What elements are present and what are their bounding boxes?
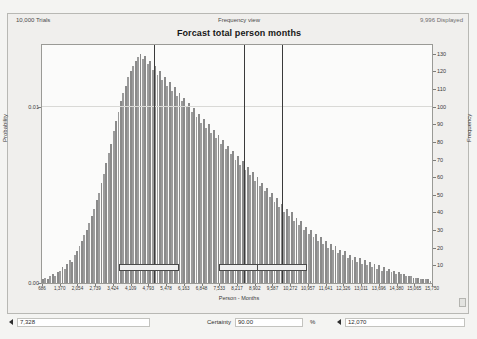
plot-area[interactable] — [41, 44, 433, 284]
y-axis-tickmark-right — [433, 230, 436, 231]
grabber-handle-left[interactable] — [119, 264, 179, 271]
y-axis-tick-right: 130 — [437, 51, 446, 57]
certainty-grabber-left[interactable] — [154, 45, 155, 283]
x-axis-tickmark — [237, 284, 238, 286]
y-axis-tickmark-right — [433, 177, 436, 178]
scroll-thumb[interactable] — [459, 298, 466, 307]
certainty-value: 90.00 — [238, 319, 253, 325]
histogram-bars — [42, 45, 432, 283]
gridline — [42, 106, 432, 107]
y-axis-tick-right: 110 — [437, 86, 446, 92]
y-axis-tickmark-right — [433, 248, 436, 249]
y-axis-tick-right: 90 — [437, 121, 443, 127]
view-mode-label: Frequency view — [8, 17, 470, 23]
x-axis-tickmark — [77, 284, 78, 286]
x-axis-label: Person - Months — [8, 295, 470, 301]
y-axis-tick-right: 40 — [437, 209, 443, 215]
x-axis-tickmark — [148, 284, 149, 286]
chart-header: 10,000 Trials Frequency view 9,996 Displ… — [8, 17, 470, 28]
x-axis-tickmark — [379, 284, 380, 286]
x-axis-tick: 15,750 — [421, 286, 443, 291]
y-axis-label-right: Frequency — [466, 114, 472, 142]
x-axis-tickmark — [131, 284, 132, 286]
upper-bound-value: 12,070 — [348, 319, 366, 325]
x-axis-tickmark — [219, 284, 220, 286]
y-axis-tick-right: 100 — [437, 104, 446, 110]
y-axis-tick-right: 120 — [437, 68, 446, 74]
x-axis-tickmark — [290, 284, 291, 286]
y-axis-tickmark-right — [433, 265, 436, 266]
y-axis-tick-right: 10 — [437, 262, 443, 268]
page-title: Forcast total person months — [8, 28, 470, 38]
x-axis-tickmark — [432, 284, 433, 286]
y-axis-label-left: Probability — [2, 114, 8, 142]
certainty-control-bar: 7,328 Certainty 90.00 % 12,070 — [7, 317, 469, 330]
x-axis-tickmark — [343, 284, 344, 286]
x-axis-tickmark — [60, 284, 61, 286]
x-axis-tickmark — [113, 284, 114, 286]
lower-bound-value: 7,328 — [20, 319, 35, 325]
y-axis-tick-right: 70 — [437, 157, 443, 163]
displayed-count-label: 9,996 Displayed — [420, 17, 463, 23]
chart-window: 10,000 Trials Frequency view 9,996 Displ… — [7, 13, 469, 314]
x-axis-tickmark — [308, 284, 309, 286]
triangle-left-icon[interactable] — [337, 319, 341, 325]
x-axis-tickmark — [255, 284, 256, 286]
y-axis-tickmark-right — [433, 160, 436, 161]
x-axis-tickmark — [184, 284, 185, 286]
certainty-grabber-right[interactable] — [282, 45, 283, 283]
y-axis-tickmark-right — [433, 124, 436, 125]
y-axis-tickmark-right — [433, 71, 436, 72]
y-axis-tick-right: 30 — [437, 227, 443, 233]
y-axis-tickmark-right — [433, 142, 436, 143]
x-axis-tickmark — [272, 284, 273, 286]
x-axis-tickmark — [397, 284, 398, 286]
x-axis-tickmark — [361, 284, 362, 286]
y-axis-tick-right: 80 — [437, 139, 443, 145]
x-axis-tickmark — [414, 284, 415, 286]
certainty-label: Certainty — [207, 319, 231, 325]
x-axis-tickmark — [202, 284, 203, 286]
y-axis-tick-right: 20 — [437, 245, 443, 251]
y-axis-tick-right: 60 — [437, 174, 443, 180]
y-axis-tick-right: 50 — [437, 192, 443, 198]
x-axis-tickmark — [326, 284, 327, 286]
certainty-grabber-mid[interactable] — [244, 45, 245, 283]
percent-symbol: % — [310, 319, 315, 325]
y-axis-tickmark-right — [433, 195, 436, 196]
y-axis-tickmark-right — [433, 212, 436, 213]
y-axis-tickmark-right — [433, 54, 436, 55]
x-axis-tickmark — [42, 284, 43, 286]
x-axis-tickmark — [95, 284, 96, 286]
histogram-bar — [430, 281, 432, 283]
y-axis-tickmark-right — [433, 107, 436, 108]
lower-bound-field[interactable] — [17, 318, 150, 327]
triangle-right-icon[interactable] — [9, 319, 13, 325]
y-axis-tickmark-right — [433, 89, 436, 90]
crystal-ball-forecast-chart: 10,000 Trials Frequency view 9,996 Displ… — [0, 0, 477, 339]
grabber-handle-right[interactable] — [257, 264, 307, 271]
x-axis-tickmark — [166, 284, 167, 286]
